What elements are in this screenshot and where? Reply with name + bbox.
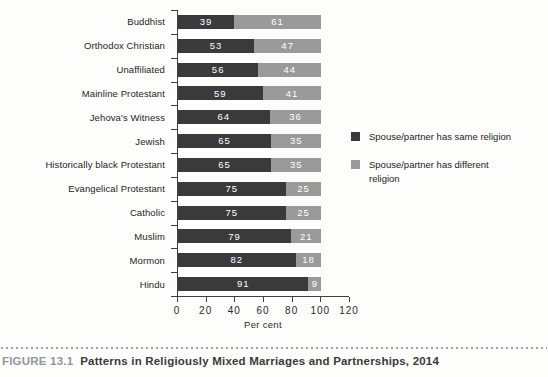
bar-segment-same-religion: 79 [178, 229, 291, 243]
x-axis-tick-label: 20 [199, 305, 212, 316]
x-axis-tick [320, 297, 321, 302]
bar-row: 5347 [178, 34, 350, 58]
dotted-separator [1, 347, 547, 349]
bar-row: 6535 [178, 129, 350, 153]
y-axis-tick [171, 129, 178, 130]
bar-segment-different-religion: 21 [291, 229, 321, 243]
bar-value-label: 61 [271, 17, 284, 27]
category-labels: BuddhistOrthodox ChristianUnaffiliatedMa… [0, 10, 171, 296]
bar-value-label: 9 [312, 279, 318, 289]
bar-row: 5941 [178, 81, 350, 105]
bar-segment-same-religion: 59 [178, 86, 263, 100]
bar-row: 8218 [178, 248, 350, 272]
bar-segment-same-religion: 75 [178, 182, 286, 196]
bar-segment-same-religion: 53 [178, 39, 254, 53]
x-axis-tick-label: 120 [339, 305, 359, 316]
bar-segment-different-religion: 44 [258, 63, 321, 77]
category-label: Muslim [0, 224, 171, 248]
x-axis-tick-label: 80 [285, 305, 298, 316]
bar-segment-same-religion: 39 [178, 15, 234, 29]
figure-caption: FIGURE 13.1Patterns in Religiously Mixed… [2, 355, 439, 367]
x-axis-tick-label: 40 [228, 305, 241, 316]
legend-item-different-religion: Spouse/partner has different religion [351, 158, 526, 187]
legend-item-same-religion: Spouse/partner has same religion [351, 130, 526, 145]
stacked-bar: 919 [178, 277, 350, 291]
bar-row: 7525 [178, 177, 350, 201]
bar-segment-different-religion: 18 [296, 253, 322, 267]
x-axis-tick-label: 0 [174, 305, 181, 316]
y-axis-tick [171, 105, 178, 106]
bar-row: 6535 [178, 153, 350, 177]
bar-segment-different-religion: 41 [263, 86, 322, 100]
legend: Spouse/partner has same religion Spouse/… [351, 130, 526, 200]
bar-value-label: 82 [230, 255, 243, 265]
legend-swatch-same-religion [351, 132, 360, 141]
bar-value-label: 39 [200, 17, 213, 27]
stacked-bar: 5644 [178, 63, 350, 77]
stacked-bar: 6436 [178, 110, 350, 124]
bar-segment-different-religion: 35 [271, 158, 321, 172]
plot-area: 3961534756445941643665356535752575257921… [177, 10, 350, 296]
bar-row: 7921 [178, 224, 350, 248]
category-label: Mainline Protestant [0, 81, 171, 105]
x-axis-tick [349, 297, 350, 302]
bar-value-label: 21 [300, 232, 313, 242]
bar-segment-same-religion: 56 [178, 63, 258, 77]
bar-segment-different-religion: 36 [270, 110, 322, 124]
bar-value-label: 36 [289, 112, 302, 122]
bar-row: 7525 [178, 201, 350, 225]
bar-segment-different-religion: 47 [254, 39, 321, 53]
bar-row: 6436 [178, 105, 350, 129]
y-axis-tick [171, 153, 178, 154]
x-axis-tick-label: 100 [310, 305, 330, 316]
x-axis-tick [292, 297, 293, 302]
bar-value-label: 65 [218, 136, 231, 146]
bar-value-label: 47 [281, 41, 294, 51]
bar-value-label: 64 [218, 112, 231, 122]
category-label: Jewish [0, 129, 171, 153]
x-axis-tick [234, 297, 235, 302]
bar-value-label: 75 [225, 184, 238, 194]
stacked-bar: 7921 [178, 229, 350, 243]
figure-13-1: BuddhistOrthodox ChristianUnaffiliatedMa… [0, 0, 548, 377]
bar-segment-same-religion: 65 [178, 134, 271, 148]
stacked-bar: 5347 [178, 39, 350, 53]
stacked-bar: 6535 [178, 134, 350, 148]
bar-row: 5644 [178, 58, 350, 82]
legend-label-different-religion: Spouse/partner has different religion [369, 158, 519, 187]
x-axis-tick [177, 297, 178, 302]
bar-value-label: 25 [297, 184, 310, 194]
bar-row: 3961 [178, 10, 350, 34]
category-label: Evangelical Protestant [0, 177, 171, 201]
figure-title: Patterns in Religiously Mixed Marriages … [80, 355, 439, 367]
bar-segment-different-religion: 25 [286, 206, 322, 220]
legend-swatch-different-religion [351, 160, 360, 169]
bar-segment-different-religion: 35 [271, 134, 321, 148]
category-label: Orthodox Christian [0, 34, 171, 58]
category-label: Hindu [0, 272, 171, 296]
y-axis-tick [171, 248, 178, 249]
bar-value-label: 75 [225, 208, 238, 218]
category-label: Catholic [0, 201, 171, 225]
bar-value-label: 53 [210, 41, 223, 51]
y-axis-tick [171, 82, 178, 83]
legend-label-same-religion: Spouse/partner has same religion [369, 130, 519, 145]
y-axis-tick [171, 272, 178, 273]
bar-value-label: 79 [228, 232, 241, 242]
y-axis-tick [171, 225, 178, 226]
stacked-bar: 3961 [178, 15, 350, 29]
x-axis: 020406080100120 [177, 296, 349, 319]
bar-value-label: 35 [290, 136, 303, 146]
category-label: Jehova's Witness [0, 105, 171, 129]
bar-value-label: 91 [237, 279, 250, 289]
category-label: Historically black Protestant [0, 153, 171, 177]
bar-value-label: 56 [212, 65, 225, 75]
x-axis-tick-label: 60 [256, 305, 269, 316]
bar-value-label: 59 [214, 89, 227, 99]
bar-value-label: 18 [302, 255, 315, 265]
bar-value-label: 35 [290, 160, 303, 170]
stacked-bar: 8218 [178, 253, 350, 267]
y-axis-tick [171, 10, 178, 11]
figure-number: FIGURE 13.1 [2, 355, 73, 367]
bar-segment-same-religion: 91 [178, 277, 308, 291]
